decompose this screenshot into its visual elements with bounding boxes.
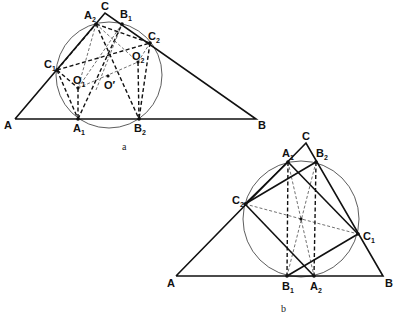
label-a-b: A — [167, 277, 175, 289]
label-c-a: C — [101, 0, 109, 12]
point-b2-b — [314, 160, 318, 164]
label-o1-a: O1 — [73, 74, 86, 88]
point-oprime-a — [106, 74, 109, 77]
label-c1-b: C1 — [363, 230, 375, 244]
label-a-a: A — [4, 119, 12, 131]
label-b1-b: B1 — [282, 280, 294, 294]
label-a2-b: A2 — [310, 280, 322, 294]
label-b-a: B — [258, 119, 266, 131]
triangle-abc-b — [176, 143, 383, 276]
point-b1-a — [120, 22, 124, 26]
point-b2-a — [137, 117, 141, 121]
label-c2-a: C2 — [148, 30, 160, 44]
point-a1-a — [76, 117, 80, 121]
label-a2-a: A2 — [84, 9, 96, 23]
label-a1-a: A1 — [73, 122, 85, 136]
caption-b: b — [281, 303, 286, 314]
figure-b: A B C A1 B2 C2 C1 B1 A2 b — [167, 130, 393, 314]
label-o2-a: O2 — [132, 50, 145, 64]
label-c1-a: C1 — [44, 58, 56, 72]
label-b2-b: B2 — [316, 147, 328, 161]
geometry-figures: A B C A1 B2 C1 A2 B1 C2 O1 O2 O′ a — [0, 0, 394, 318]
label-c-b: C — [302, 130, 310, 142]
label-b1-a: B1 — [120, 8, 132, 22]
point-a2-b — [312, 274, 316, 278]
label-a1-b: A1 — [282, 147, 294, 161]
point-c1-b — [356, 232, 360, 236]
figure-a: A B C A1 B2 C1 A2 B1 C2 O1 O2 O′ a — [4, 0, 266, 152]
point-center-b — [299, 217, 302, 220]
label-c2-b: C2 — [232, 194, 244, 208]
point-b1-b — [285, 274, 289, 278]
label-b-b: B — [385, 277, 393, 289]
caption-a: a — [122, 141, 127, 152]
point-o1-a — [76, 86, 79, 89]
label-oprime-a: O′ — [104, 79, 116, 91]
label-b2-a: B2 — [134, 122, 146, 136]
